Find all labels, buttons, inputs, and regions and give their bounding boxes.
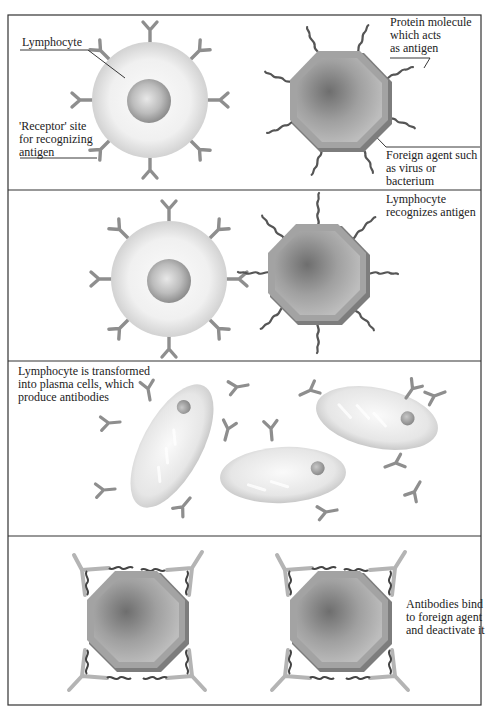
plasma-cells (114, 372, 444, 520)
label-protein-antigen: Protein molecule which acts as antigen (390, 16, 472, 55)
lymphocyte-cell (72, 22, 228, 178)
caption-recognizes-antigen: Lymphocyte recognizes antigen (386, 193, 476, 219)
bound-agent-2 (272, 552, 408, 690)
lymphocyte-cell-2 (91, 201, 247, 357)
label-foreign-agent: Foreign agent such as virus or bacterium (386, 149, 477, 188)
label-lymphocyte: Lymphocyte (22, 36, 82, 49)
caption-plasma-cells: Lymphocyte is transformed into plasma ce… (18, 365, 150, 404)
label-receptor-site: 'Receptor' site for recognizing antigen (19, 120, 93, 159)
caption-antibodies-bind: Antibodies bind to foreign agent and dea… (406, 598, 485, 637)
foreign-agent-cell-2 (238, 193, 398, 353)
bound-agent-1 (69, 552, 205, 690)
